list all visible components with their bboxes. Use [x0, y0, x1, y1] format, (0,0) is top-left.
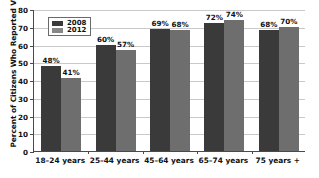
- legend-label-2012: 2012: [67, 27, 86, 33]
- legend-item-2012: 2012: [52, 27, 86, 33]
- bar: 48%: [41, 66, 61, 151]
- bar: 41%: [61, 78, 81, 151]
- bar-value-label: 48%: [43, 56, 60, 65]
- y-axis-tick-label: 40: [18, 77, 28, 86]
- y-axis-tick: [30, 81, 34, 82]
- y-axis-tick: [30, 63, 34, 64]
- x-axis-tick: [252, 151, 253, 154]
- y-axis-tick: [30, 99, 34, 100]
- y-axis-tick-label: 20: [18, 112, 28, 121]
- bar-group: 60%57%: [96, 10, 136, 151]
- bar-value-label: 72%: [206, 13, 223, 22]
- x-axis-tick-label: 25–44 years: [90, 156, 140, 165]
- legend-swatch-2008: [52, 21, 63, 26]
- bar: 74%: [224, 20, 244, 151]
- bar-value-label: 68%: [260, 20, 277, 29]
- y-axis-tick-label: 70: [18, 23, 28, 32]
- bar-value-label: 70%: [280, 17, 297, 26]
- bar: 72%: [204, 23, 224, 151]
- y-axis-tick-label: 80: [18, 6, 28, 15]
- x-axis-tick-label: 65–74 years: [199, 156, 249, 165]
- x-axis-tick-label: 75 years +: [256, 156, 301, 165]
- bar: 60%: [96, 45, 116, 152]
- y-axis-tick-label: 30: [18, 94, 28, 103]
- legend: 2008 2012: [48, 17, 91, 36]
- y-axis-tick: [30, 10, 34, 11]
- y-axis-tick-label: 60: [18, 41, 28, 50]
- y-axis-tick-label: 10: [18, 130, 28, 139]
- bar-value-label: 41%: [63, 68, 80, 77]
- y-axis-tick-label: 50: [18, 59, 28, 68]
- bar-group: 69%68%: [150, 10, 190, 151]
- bar-group: 72%74%: [204, 10, 244, 151]
- legend-swatch-2012: [52, 28, 63, 33]
- bar: 69%: [150, 29, 170, 151]
- bar: 68%: [259, 30, 279, 151]
- bar-group: 68%70%: [259, 10, 299, 151]
- y-axis-tick: [30, 134, 34, 135]
- y-axis-tick: [30, 117, 34, 118]
- x-axis-tick: [197, 151, 198, 154]
- bar-value-label: 60%: [97, 35, 114, 44]
- bar-chart: Percent of Citizens Who Reported Voting …: [0, 0, 319, 178]
- bar: 57%: [116, 50, 136, 151]
- bar-value-label: 69%: [151, 19, 168, 28]
- bar-value-label: 74%: [226, 10, 243, 19]
- y-axis-tick: [30, 152, 34, 153]
- bar: 70%: [279, 27, 299, 151]
- y-axis-tick: [30, 28, 34, 29]
- bar-value-label: 68%: [171, 20, 188, 29]
- y-axis-title: Percent of Citizens Who Reported Voting: [9, 0, 18, 148]
- y-axis-tick: [30, 46, 34, 47]
- x-axis-tick-label: 45–64 years: [144, 156, 194, 165]
- y-axis-tick-label: 0: [23, 148, 28, 157]
- x-axis-tick: [88, 151, 89, 154]
- x-axis-tick-label: 18–24 years: [35, 156, 85, 165]
- bar: 68%: [170, 30, 190, 151]
- bar-value-label: 57%: [117, 40, 134, 49]
- x-axis-tick: [143, 151, 144, 154]
